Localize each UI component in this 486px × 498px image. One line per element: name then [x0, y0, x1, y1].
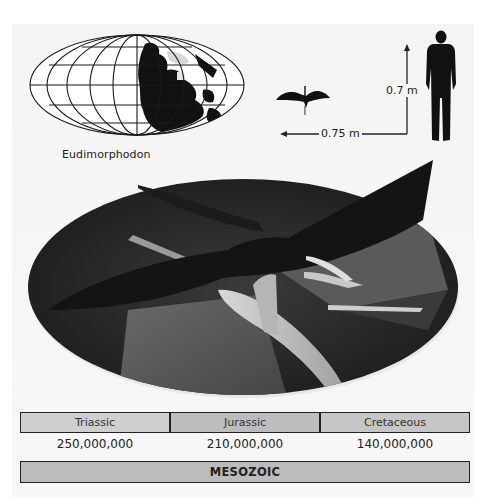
- human-silhouette-icon: [426, 31, 456, 142]
- era-bar-mesozoic: MESOZOIC: [20, 461, 470, 483]
- paleo-globe-map: [27, 32, 247, 140]
- year-jurassic: 210,000,000: [170, 437, 320, 455]
- year-cretaceous: 140,000,000: [320, 437, 470, 455]
- period-jurassic: Jurassic: [171, 413, 321, 432]
- period-cretaceous: Cretaceous: [321, 413, 469, 432]
- period-start-years: 250,000,000 210,000,000 140,000,000: [20, 437, 470, 455]
- year-triassic: 250,000,000: [20, 437, 170, 455]
- pterosaur-silhouette-icon: [276, 86, 330, 115]
- pterosaur-illustration: [28, 160, 468, 400]
- period-triassic: Triassic: [21, 413, 171, 432]
- geologic-period-bar: Triassic Jurassic Cretaceous: [20, 412, 470, 433]
- size-comparison-diagram: [270, 28, 470, 148]
- wingspan-label: 0.75 m: [319, 127, 362, 140]
- height-label: 0.7 m: [384, 84, 420, 97]
